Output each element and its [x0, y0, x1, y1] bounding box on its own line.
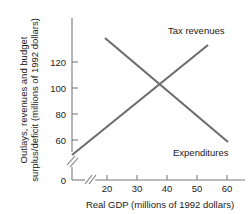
- y-axis-title-line2: surplus/deficit (millions of 1992 dollar…: [29, 18, 40, 182]
- y-tick-label-100: 100: [50, 83, 66, 94]
- chart-figure: 120 100 80 60 0 20 30 40 50 60 Tax reven…: [0, 0, 251, 214]
- x-tick-label-20: 20: [102, 183, 113, 194]
- series-label-tax-revenues: Tax revenues: [168, 25, 225, 36]
- y-tick-label-60: 60: [55, 135, 66, 146]
- y-axis-break-icon: [67, 156, 78, 167]
- y-tick-label-80: 80: [55, 109, 66, 120]
- series-label-expenditures: Expenditures: [173, 147, 229, 158]
- x-tick-label-60: 60: [222, 183, 233, 194]
- x-tick-label-50: 50: [192, 183, 203, 194]
- x-tick-label-40: 40: [162, 183, 173, 194]
- x-tick-label-30: 30: [132, 183, 143, 194]
- series-line-expenditures: [105, 38, 228, 142]
- axis-origin-label: 0: [61, 175, 66, 186]
- x-axis-title: Real GDP (millions of 1992 dollars): [86, 199, 234, 210]
- chart-canvas: 120 100 80 60 0 20 30 40 50 60 Tax reven…: [0, 0, 251, 214]
- y-axis-title-line1: Outlays, revenues and budget: [18, 36, 29, 163]
- y-tick-label-120: 120: [50, 57, 66, 68]
- series-line-tax-revenues: [72, 45, 208, 155]
- x-axis-break-icon: [85, 175, 96, 184]
